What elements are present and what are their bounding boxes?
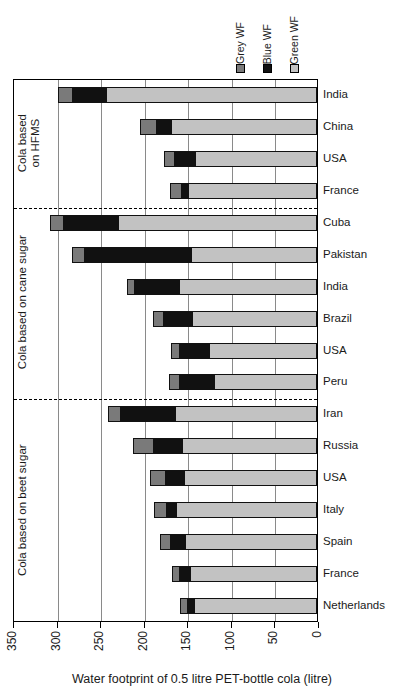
bar-row: [14, 336, 317, 368]
category-label-netherlands-16: Netherlands: [323, 600, 385, 612]
x-tick-label-300: 300: [50, 631, 62, 651]
x-tick-label-100: 100: [224, 631, 236, 651]
category-label-italy-13: Italy: [323, 504, 344, 516]
bar-row: [14, 240, 317, 272]
x-tick: [13, 622, 14, 628]
group-label-0: Cola based on HFMS: [16, 79, 42, 207]
bar-segment-blue: [134, 279, 180, 295]
bar-segment-green: [171, 119, 317, 135]
bar-segment-blue: [165, 470, 185, 486]
category-label-france-3: France: [323, 185, 359, 197]
bar-segment-green: [192, 311, 317, 327]
category-label-usa-12: USA: [323, 472, 347, 484]
bar-segment-green: [175, 406, 317, 422]
bar-segment-green: [195, 151, 317, 167]
bar-row: [14, 495, 317, 527]
stacked-bar[interactable]: [50, 215, 319, 231]
group-label-2: Cola based on beet sugar: [16, 398, 29, 622]
bar-row: [14, 80, 317, 112]
bar-row: [14, 559, 317, 591]
x-tick-label-200: 200: [137, 631, 149, 651]
bar-row: [14, 112, 317, 144]
bar-segment-grey: [140, 119, 157, 135]
stacked-bar[interactable]: [169, 374, 319, 390]
stacked-bar[interactable]: [171, 343, 319, 359]
legend-label-blue-wf: Blue WF: [262, 24, 273, 64]
category-label-pakistan-5: Pakistan: [323, 249, 367, 261]
legend-swatch-green-icon: [290, 64, 299, 73]
x-tick-label-150: 150: [180, 631, 192, 651]
bar-row: [14, 367, 317, 399]
category-label-peru-9: Peru: [323, 376, 347, 388]
bar-segment-green: [191, 247, 316, 263]
stacked-bar[interactable]: [133, 438, 319, 454]
bar-segment-blue: [153, 438, 183, 454]
chart-root: Grey WF Blue WF Green WF IndiaChinaUSAFr…: [0, 0, 404, 695]
category-label-brazil-7: Brazil: [323, 313, 352, 325]
category-label-iran-10: Iran: [323, 408, 343, 420]
bar-segment-green: [209, 343, 317, 359]
bar-segment-green: [214, 374, 317, 390]
stacked-bar[interactable]: [153, 311, 319, 327]
stacked-bar[interactable]: [127, 279, 319, 295]
stacked-bar[interactable]: [180, 598, 319, 614]
legend-item-grey-wf: Grey WF: [232, 2, 248, 74]
x-tick: [144, 622, 145, 628]
legend-label-grey-wf: Grey WF: [235, 22, 246, 64]
bar-row: [14, 176, 317, 208]
x-tick-label-250: 250: [93, 631, 105, 651]
bar-segment-green: [194, 598, 317, 614]
plot-area: [13, 79, 318, 622]
category-label-cuba-4: Cuba: [323, 217, 351, 229]
x-tick: [187, 622, 188, 628]
bar-segment-blue: [63, 215, 120, 231]
legend-label-green-wf: Green WF: [289, 16, 300, 64]
bar-row: [14, 591, 317, 623]
bar-segment-blue: [156, 119, 172, 135]
category-label-china-1: China: [323, 121, 353, 133]
bar-row: [14, 144, 317, 176]
stacked-bar[interactable]: [72, 247, 319, 263]
category-label-spain-14: Spain: [323, 536, 352, 548]
bar-segment-green: [179, 279, 317, 295]
x-axis-ticks: [13, 622, 318, 629]
bar-segment-blue: [120, 406, 176, 422]
bar-row: [14, 304, 317, 336]
bar-segment-green: [190, 566, 317, 582]
stacked-bar[interactable]: [150, 470, 319, 486]
x-tick: [274, 622, 275, 628]
legend-swatch-grey-icon: [236, 64, 245, 73]
bar-segment-green: [185, 534, 317, 550]
bar-row: [14, 272, 317, 304]
category-label-russia-11: Russia: [323, 440, 358, 452]
x-tick-label-350: 350: [6, 631, 18, 651]
chart-legend: Grey WF Blue WF Green WF: [232, 2, 342, 74]
group-separator: [14, 208, 317, 209]
category-label-usa-8: USA: [323, 345, 347, 357]
x-tick-label-50: 50: [267, 631, 279, 644]
stacked-bar[interactable]: [58, 87, 319, 103]
stacked-bar[interactable]: [164, 151, 319, 167]
stacked-bar[interactable]: [172, 566, 319, 582]
stacked-bar[interactable]: [108, 406, 319, 422]
bar-segment-blue: [179, 374, 216, 390]
category-label-india-0: India: [323, 89, 348, 101]
category-label-india-6: India: [323, 281, 348, 293]
stacked-bar[interactable]: [160, 534, 319, 550]
stacked-bar[interactable]: [170, 183, 319, 199]
bar-segment-blue: [179, 343, 210, 359]
group-label-1: Cola based on cane sugar: [16, 207, 29, 399]
bar-segment-blue: [163, 311, 193, 327]
legend-item-green-wf: Green WF: [286, 2, 302, 74]
group-separator: [14, 399, 317, 400]
stacked-bar[interactable]: [154, 502, 319, 518]
bar-segment-green: [106, 87, 317, 103]
bar-row: [14, 208, 317, 240]
bar-segment-grey: [50, 215, 64, 231]
stacked-bar[interactable]: [140, 119, 319, 135]
x-tick: [57, 622, 58, 628]
category-label-france-15: France: [323, 568, 359, 580]
bar-segment-blue: [84, 247, 193, 263]
category-label-usa-2: USA: [323, 153, 347, 165]
bar-segment-grey: [150, 470, 166, 486]
